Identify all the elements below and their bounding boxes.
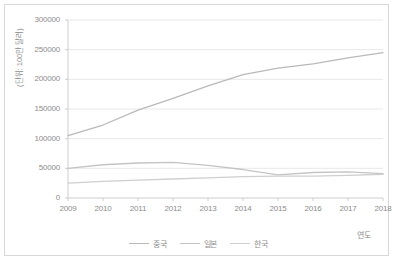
legend-item[interactable]: 일본 xyxy=(180,238,218,249)
legend-item[interactable]: 중국 xyxy=(129,238,167,249)
plot-area xyxy=(0,0,397,264)
legend-item[interactable]: 한국 xyxy=(230,238,268,249)
legend-label: 일본 xyxy=(204,238,218,249)
series-line-한국 xyxy=(68,174,383,183)
legend-line-icon xyxy=(129,243,149,244)
x-axis-tick-label: 2016 xyxy=(296,204,330,213)
x-axis-tick-label: 2012 xyxy=(156,204,190,213)
series-line-중국 xyxy=(68,53,383,136)
x-axis-tick-label: 2015 xyxy=(261,204,295,213)
legend-line-icon xyxy=(230,243,250,244)
x-axis-tick-label: 2014 xyxy=(226,204,260,213)
x-axis-tick-label: 2011 xyxy=(121,204,155,213)
x-axis-tick-label: 2013 xyxy=(191,204,225,213)
x-axis-tick-label: 2018 xyxy=(366,204,397,213)
x-axis-tick-label: 2017 xyxy=(331,204,365,213)
x-axis-tick-label: 2009 xyxy=(51,204,85,213)
x-axis-tick-label: 2010 xyxy=(86,204,120,213)
line-chart: (단위: 100만 달러) 05000010000015000020000025… xyxy=(0,0,397,264)
legend-label: 한국 xyxy=(254,238,268,249)
legend-label: 중국 xyxy=(153,238,167,249)
chart-legend: 중국일본한국 xyxy=(0,238,397,249)
legend-line-icon xyxy=(180,243,200,244)
